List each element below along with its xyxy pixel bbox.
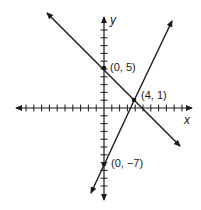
point-label-4-1: (4, 1) (141, 90, 167, 101)
point-label-0-neg7: (0, −7) (111, 158, 143, 169)
point-label-0-5: (0, 5) (110, 62, 136, 73)
y-axis-label: y (110, 14, 116, 26)
point-0-neg7 (102, 162, 107, 167)
x-axis-label: x (184, 114, 190, 126)
increasing-line (91, 107, 131, 193)
point-0-5 (102, 66, 107, 71)
coordinate-plane (0, 0, 201, 210)
point-4-1 (132, 98, 137, 103)
